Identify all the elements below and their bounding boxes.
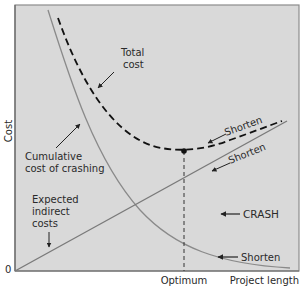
origin-label: 0 bbox=[5, 264, 11, 275]
optimum-label: Optimum bbox=[161, 275, 208, 286]
y-axis-label: Cost bbox=[3, 120, 14, 142]
crash-label: CRASH bbox=[243, 208, 279, 220]
project-crashing-chart: Total cost Cumulative cost of crashing E… bbox=[0, 0, 302, 287]
x-axis-label: Project length bbox=[230, 275, 299, 286]
optimum-point bbox=[181, 148, 187, 154]
total-cost-label: Total cost bbox=[120, 47, 148, 70]
shorten-crash-label: Shorten bbox=[241, 252, 280, 263]
